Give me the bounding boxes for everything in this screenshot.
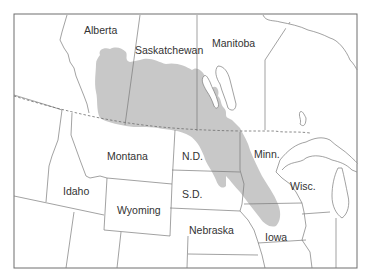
label-idaho: Idaho <box>63 186 89 197</box>
label-minnesota: Minn. <box>254 149 280 160</box>
map-canvas <box>0 0 367 277</box>
label-montana: Montana <box>107 151 148 162</box>
label-south-dakota: S.D. <box>182 189 202 200</box>
label-alberta: Alberta <box>84 25 117 36</box>
label-manitoba: Manitoba <box>212 38 255 49</box>
label-wisconsin: Wisc. <box>290 181 316 192</box>
label-iowa: Iowa <box>265 232 287 243</box>
label-north-dakota: N.D. <box>182 151 203 162</box>
label-nebraska: Nebraska <box>189 225 234 236</box>
label-saskatchewan: Saskatchewan <box>135 45 203 56</box>
label-wyoming: Wyoming <box>117 205 161 216</box>
